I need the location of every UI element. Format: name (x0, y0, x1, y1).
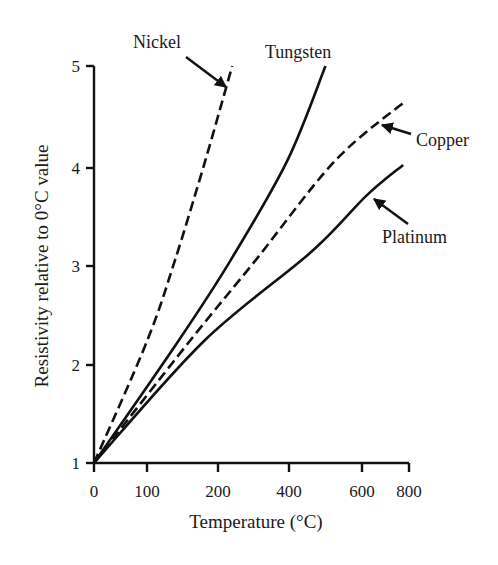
y-tick-label: 1 (72, 454, 81, 473)
nickel-label: Nickel (133, 32, 181, 52)
copper-label: Copper (416, 130, 469, 150)
y-tick-label: 3 (72, 257, 81, 276)
nickel-arrow-icon (186, 57, 226, 87)
x-tick-label: 100 (134, 482, 160, 501)
platinum-arrow-icon (374, 199, 408, 224)
x-axis: 0100200400600800 (90, 463, 422, 501)
x-axis-title: Temperature (°C) (189, 511, 322, 533)
x-tick-label: 200 (205, 482, 231, 501)
tungsten-label: Tungsten (265, 42, 331, 62)
series-line-nickel (94, 66, 232, 463)
annotation-nickel: Nickel (133, 32, 226, 87)
y-axis: 12345 (72, 57, 95, 473)
copper-arrow-icon (382, 125, 411, 134)
y-axis-ticks: 12345 (72, 57, 95, 473)
annotation-tungsten: Tungsten (265, 42, 331, 62)
annotation-copper: Copper (382, 125, 469, 150)
series-layer (94, 66, 406, 463)
series-line-platinum (94, 165, 403, 463)
x-tick-label: 800 (396, 482, 422, 501)
y-axis-title: Resistivity relative to 0°C value (31, 145, 52, 388)
annotation-platinum: Platinum (374, 199, 447, 247)
x-tick-label: 0 (90, 482, 99, 501)
platinum-label: Platinum (382, 227, 447, 247)
x-tick-label: 400 (276, 482, 302, 501)
x-axis-ticks: 0100200400600800 (90, 463, 422, 501)
series-line-tungsten (94, 66, 326, 463)
y-tick-label: 5 (72, 57, 81, 76)
x-tick-label: 600 (349, 482, 375, 501)
y-tick-label: 4 (72, 159, 81, 178)
resistivity-chart: 12345 0100200400600800 Nickel Tungsten C… (0, 0, 498, 565)
y-tick-label: 2 (72, 356, 81, 375)
